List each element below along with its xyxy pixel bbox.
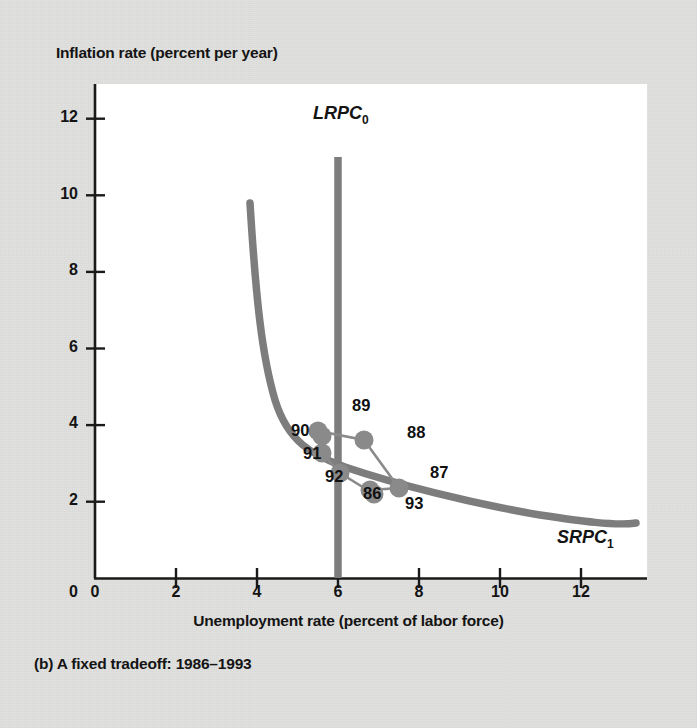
- y-tick-label-0: 0: [44, 583, 78, 601]
- srpc-curve-label-subscript: 1: [607, 537, 614, 551]
- data-point-label-88: 88: [407, 423, 425, 442]
- srpc-curve-label-text: SRPC: [557, 527, 607, 547]
- x-tick-label-6: 6: [323, 583, 353, 601]
- x-axis-title: Unemployment rate (percent of labor forc…: [0, 612, 697, 630]
- data-points: [309, 422, 409, 504]
- figure-caption: (b) A fixed tradeoff: 1986–1993: [34, 655, 251, 673]
- data-point-label-89: 89: [352, 396, 370, 415]
- x-tick-label-2: 2: [161, 583, 191, 601]
- y-tick-label-2: 2: [44, 491, 78, 509]
- data-point-label-87: 87: [430, 463, 448, 482]
- lrpc-curve-label-subscript: 0: [362, 113, 369, 127]
- data-point-label-91: 91: [303, 444, 321, 463]
- data-point-label-92: 92: [325, 467, 343, 486]
- y-tick-label-6: 6: [44, 338, 78, 356]
- srpc-curve-label: SRPC1: [557, 527, 614, 551]
- data-point-90: [313, 427, 332, 446]
- lrpc-curve-label-text: LRPC: [313, 103, 362, 123]
- x-tick-label-8: 8: [404, 583, 434, 601]
- y-tick-label-12: 12: [44, 108, 78, 126]
- data-point-label-90: 90: [291, 421, 309, 440]
- x-tick-label-12: 12: [566, 583, 596, 601]
- y-tick-label-10: 10: [44, 185, 78, 203]
- data-point-88: [355, 431, 374, 450]
- x-tick-label-4: 4: [242, 583, 272, 601]
- figure-page: Inflation rate (percent per year): [0, 0, 697, 728]
- data-point-label-86: 86: [363, 484, 381, 503]
- lrpc-curve-label: LRPC0: [313, 103, 369, 127]
- y-tick-label-8: 8: [44, 261, 78, 279]
- data-point-label-93: 93: [405, 494, 423, 513]
- x-tick-label-10: 10: [485, 583, 515, 601]
- y-tick-label-4: 4: [44, 414, 78, 432]
- x-tick-label-0: 0: [80, 583, 110, 601]
